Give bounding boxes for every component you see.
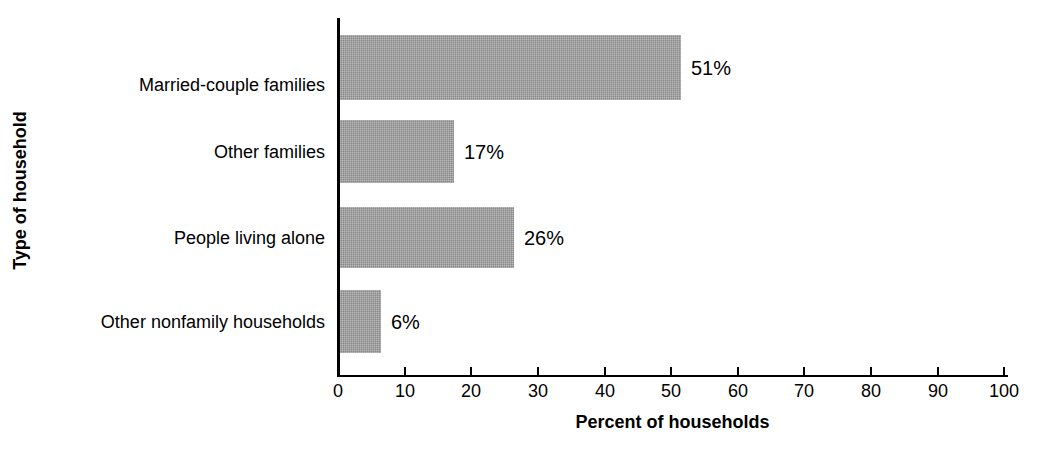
y-axis-title: Type of household — [0, 0, 40, 380]
x-tick-label-60: 60 — [728, 382, 748, 400]
bar-value-married-couple-families: 51% — [691, 58, 731, 78]
category-label-people-living-alone: People living alone — [45, 229, 325, 247]
x-tick-label-80: 80 — [861, 382, 881, 400]
x-tick-80 — [870, 367, 872, 375]
bar-married-couple-families[interactable] — [340, 35, 681, 100]
x-tick-30 — [537, 367, 539, 375]
x-tick-label-30: 30 — [528, 382, 548, 400]
bar-other-families[interactable] — [340, 120, 454, 183]
bar-value-people-living-alone: 26% — [524, 228, 564, 248]
x-tick-60 — [737, 367, 739, 375]
x-tick-0 — [337, 367, 339, 375]
bar-value-other-families: 17% — [464, 142, 504, 162]
x-tick-label-70: 70 — [794, 382, 814, 400]
x-tick-label-20: 20 — [461, 382, 481, 400]
x-axis-title: Percent of households — [337, 412, 1008, 433]
bar-people-living-alone[interactable] — [340, 207, 514, 268]
category-label-other-nonfamily-households: Other nonfamily households — [45, 313, 325, 331]
plot-area: 51% 17% 26% 6% — [337, 18, 1007, 375]
x-axis-line — [337, 375, 1008, 377]
x-tick-10 — [404, 367, 406, 375]
x-tick-label-50: 50 — [661, 382, 681, 400]
x-tick-50 — [670, 367, 672, 375]
page-edge-artifact — [0, 455, 1045, 463]
x-tick-100 — [1003, 367, 1005, 375]
category-label-married-couple-families: Married-couple families — [45, 76, 325, 94]
x-tick-label-100: 100 — [989, 382, 1019, 400]
x-tick-20 — [470, 367, 472, 375]
x-tick-label-0: 0 — [333, 382, 343, 400]
x-tick-40 — [604, 367, 606, 375]
y-axis-title-text: Type of household — [10, 111, 31, 270]
x-tick-70 — [803, 367, 805, 375]
x-tick-label-40: 40 — [595, 382, 615, 400]
x-tick-90 — [937, 367, 939, 375]
category-label-other-families: Other families — [45, 143, 325, 161]
x-tick-label-90: 90 — [928, 382, 948, 400]
bar-value-other-nonfamily-households: 6% — [391, 312, 420, 332]
bar-other-nonfamily-households[interactable] — [340, 290, 381, 353]
x-tick-label-10: 10 — [395, 382, 415, 400]
bar-chart: Type of household Married-couple familie… — [0, 0, 1045, 463]
category-label-group: Married-couple families Other families P… — [45, 18, 325, 375]
